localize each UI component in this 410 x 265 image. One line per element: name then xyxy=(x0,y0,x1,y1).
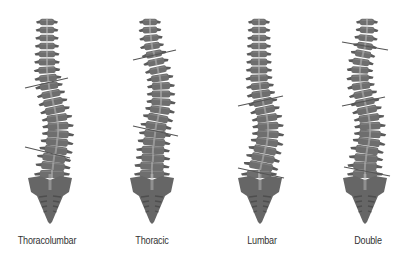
vertebra xyxy=(247,51,272,58)
vertebra xyxy=(146,73,174,84)
vertebra xyxy=(136,153,171,163)
vertebra xyxy=(136,145,170,154)
vertebra xyxy=(347,161,383,171)
label-thoracolumbar: Thoracolumbar xyxy=(18,234,77,246)
label-double: Double xyxy=(354,234,382,246)
vertebra xyxy=(139,19,161,25)
vertebra xyxy=(348,152,383,163)
sacrum xyxy=(238,174,282,224)
spine-thoracolumbar xyxy=(25,19,74,224)
vertebra xyxy=(34,59,60,66)
vertebra xyxy=(40,137,74,148)
vertebra xyxy=(36,19,58,25)
vertebra xyxy=(139,34,163,43)
vertebra xyxy=(354,121,386,130)
vertebra xyxy=(247,35,270,42)
vertebra xyxy=(35,51,60,58)
vertebra xyxy=(252,129,285,138)
vertebra xyxy=(42,121,74,130)
label-thoracic: Thoracic xyxy=(135,234,168,246)
vertebra xyxy=(137,137,171,148)
vertebra xyxy=(346,74,373,82)
vertebra xyxy=(347,66,374,74)
spine-lumbar xyxy=(238,19,284,224)
vertebra xyxy=(42,129,75,138)
vertebra xyxy=(138,26,161,34)
vertebra xyxy=(35,43,59,50)
vertebra xyxy=(246,81,274,91)
vertebra xyxy=(35,160,71,171)
vertebra xyxy=(248,19,270,25)
vertebra xyxy=(146,98,176,107)
sacrum xyxy=(343,174,387,224)
vertebra xyxy=(147,82,175,90)
vertebra xyxy=(36,27,59,33)
scoliosis-types-diagram xyxy=(0,0,410,265)
vertebra xyxy=(34,73,62,83)
sacrum xyxy=(28,174,72,224)
vertebra xyxy=(354,129,387,138)
vertebra xyxy=(34,66,61,74)
vertebra xyxy=(140,41,165,51)
vertebra xyxy=(147,90,176,97)
spine-double xyxy=(342,19,390,224)
vertebra xyxy=(248,27,271,33)
sacrum xyxy=(130,174,174,224)
vertebra xyxy=(245,74,272,82)
vertebra xyxy=(246,59,272,66)
label-lumbar: Lumbar xyxy=(247,234,277,246)
vertebra xyxy=(355,26,378,34)
vertebra xyxy=(246,67,272,74)
spine-thoracic xyxy=(130,19,178,224)
vertebra xyxy=(348,57,374,68)
vertebra xyxy=(134,161,170,171)
vertebra xyxy=(252,121,284,130)
vertebra xyxy=(35,35,58,42)
vertebra xyxy=(247,43,271,50)
vertebra xyxy=(356,19,378,25)
vertebra xyxy=(354,34,378,43)
